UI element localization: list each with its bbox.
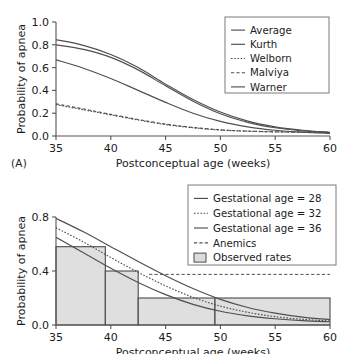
x-tick-label: 60 xyxy=(323,142,337,155)
x-axis-title: Postconceptual age (weeks) xyxy=(116,346,270,354)
x-tick-label: 55 xyxy=(268,142,282,155)
legend-swatch-observed-rates xyxy=(194,253,206,262)
y-tick-label: 1.0 xyxy=(32,16,50,29)
y-tick-label: 0.8 xyxy=(32,211,50,224)
bar-segment xyxy=(105,271,138,325)
x-tick-label: 50 xyxy=(213,331,227,344)
y-tick-label: 0.4 xyxy=(32,265,50,278)
legend: Gestational age = 28Gestational age = 32… xyxy=(188,185,336,265)
x-tick-label: 40 xyxy=(104,142,118,155)
y-tick-label: 0.2 xyxy=(32,107,50,120)
y-axis-title: Probability of apnea xyxy=(15,216,28,326)
legend-label-4: Warner xyxy=(250,82,287,93)
legend-label-2: Gestational age = 36 xyxy=(213,223,322,234)
x-tick-label: 35 xyxy=(49,331,63,344)
x-tick-label: 35 xyxy=(49,142,63,155)
x-tick-label: 55 xyxy=(268,331,282,344)
legend-label-0: Gestational age = 28 xyxy=(213,193,322,204)
x-tick-label: 40 xyxy=(104,331,118,344)
bar-segment xyxy=(138,298,215,325)
x-axis-title: Postconceptual age (weeks) xyxy=(116,157,270,170)
x-tick-label: 45 xyxy=(159,142,173,155)
legend-label-3: Malviya xyxy=(250,67,289,78)
y-tick-label: 0.0 xyxy=(32,130,50,143)
panel-a-plot: 3540455055600.00.20.40.60.81.0Postconcep… xyxy=(0,0,342,177)
legend-label-1: Gestational age = 32 xyxy=(213,208,322,219)
y-tick-label: 0.6 xyxy=(32,62,50,75)
legend-label-1: Kurth xyxy=(250,39,277,50)
chart-panel-a: 3540455055600.00.20.40.60.81.0Postconcep… xyxy=(0,0,342,177)
panel-a-label: (A) xyxy=(11,157,27,169)
legend-label-0: Average xyxy=(250,25,292,36)
x-tick-label: 45 xyxy=(159,331,173,344)
chart-panel-b: 3540455055600.00.40.8Postconceptual age … xyxy=(0,177,342,354)
y-axis-title: Probability of apnea xyxy=(15,24,28,134)
y-tick-label: 0.8 xyxy=(32,39,50,52)
x-tick-label: 50 xyxy=(213,142,227,155)
y-tick-label: 0.0 xyxy=(32,319,50,332)
legend: AverageKurthWelbornMalviyaWarner xyxy=(225,17,329,93)
apnea-probability-figure: 3540455055600.00.20.40.60.81.0Postconcep… xyxy=(0,0,342,354)
legend-label-4: Observed rates xyxy=(213,252,291,263)
x-tick-label: 60 xyxy=(323,331,337,344)
legend-label-2: Welborn xyxy=(250,53,292,64)
legend-label-3: Anemics xyxy=(213,238,256,249)
bar-segment xyxy=(56,247,105,325)
panel-b-plot: 3540455055600.00.40.8Postconceptual age … xyxy=(0,177,342,354)
y-tick-label: 0.4 xyxy=(32,84,50,97)
